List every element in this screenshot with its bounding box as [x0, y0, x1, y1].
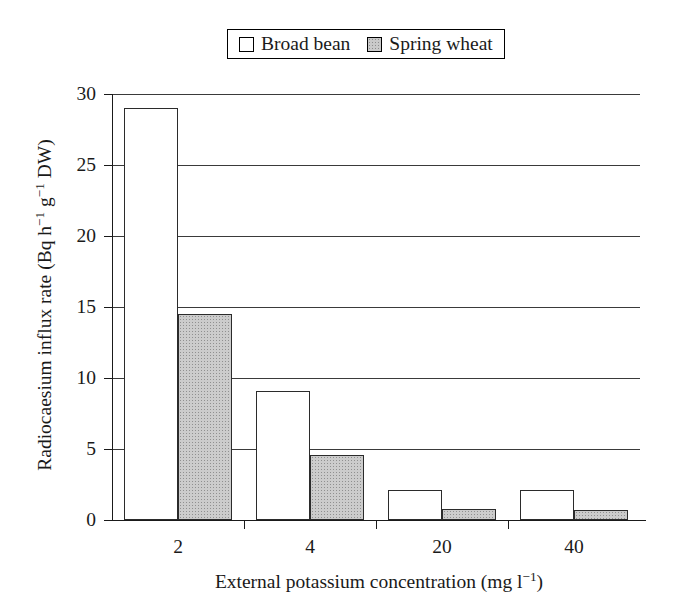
bar-broad-bean [256, 391, 310, 520]
x-axis-tick [508, 520, 509, 529]
x-axis-tick-label: 40 [534, 533, 614, 561]
legend-entry-spring-wheat: Spring wheat [367, 34, 492, 54]
x-axis-ticks [112, 520, 646, 529]
unfilled-square-swatch-icon [239, 37, 254, 52]
x-axis-tick-labels: 242040 [112, 533, 646, 561]
y-axis-tick-labels: 051015202530 [56, 94, 96, 520]
bar-spring-wheat [178, 314, 232, 520]
bar-spring-wheat [310, 455, 364, 520]
y-axis-tick-label: 0 [56, 510, 96, 530]
bar-series-container [112, 94, 646, 520]
bar-broad-bean [124, 108, 178, 520]
legend-label-spring-wheat: Spring wheat [389, 34, 492, 54]
y-axis-tick [104, 94, 112, 95]
y-axis-tick [104, 378, 112, 379]
y-axis-tick-label: 20 [56, 226, 96, 246]
legend-label-broad-bean: Broad bean [261, 34, 350, 54]
legend-entry-broad-bean: Broad bean [239, 34, 350, 54]
y-axis-tick [104, 520, 112, 521]
y-axis-tick [104, 307, 112, 308]
x-axis-tick [244, 520, 245, 529]
x-axis-tick-label: 20 [402, 533, 482, 561]
y-axis-tick-label: 15 [56, 297, 96, 317]
bar-broad-bean [388, 490, 442, 520]
y-axis-tick [104, 449, 112, 450]
y-axis-tick [104, 236, 112, 237]
x-axis-title: External potassium concentration (mg l−1… [112, 571, 646, 593]
y-axis-tick-label: 30 [56, 84, 96, 104]
bar-spring-wheat [574, 510, 628, 520]
bar-broad-bean [520, 490, 574, 520]
stippled-square-swatch-icon [367, 37, 382, 52]
y-axis-tick-label: 10 [56, 368, 96, 388]
x-axis-tick [376, 520, 377, 529]
bar-spring-wheat [442, 509, 496, 520]
x-axis-tick-label: 4 [270, 533, 350, 561]
y-axis-tick-label: 5 [56, 439, 96, 459]
y-axis-tick [104, 165, 112, 166]
bar-chart-figure: Broad bean Spring wheat Radiocaesium inf… [0, 0, 674, 615]
y-axis-tick-label: 25 [56, 155, 96, 175]
chart-legend: Broad bean Spring wheat [227, 29, 505, 59]
x-axis-tick-label: 2 [138, 533, 218, 561]
